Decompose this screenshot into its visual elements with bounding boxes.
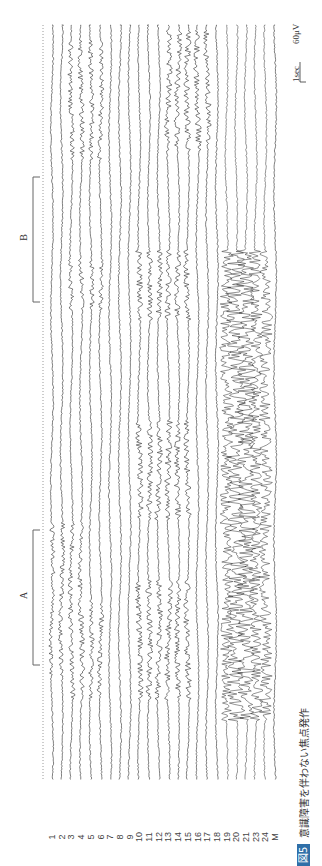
bracket-a-label: A xyxy=(18,592,29,599)
eeg-trace-ch-6 xyxy=(97,25,104,780)
eeg-trace-ch-17 xyxy=(204,25,211,780)
channel-label-21: 21 xyxy=(241,827,251,847)
eeg-trace-ch-13 xyxy=(164,25,172,780)
caption-text: 意識障害を伴わない焦点発作 xyxy=(296,708,311,838)
channel-label-16: 16 xyxy=(193,827,203,847)
eeg-trace-ch-14 xyxy=(174,25,182,780)
eeg-trace-ch-4 xyxy=(78,25,85,780)
channel-label-18: 18 xyxy=(212,827,222,847)
eeg-trace-ch-2 xyxy=(58,25,65,780)
eeg-trace-ch-18 xyxy=(215,25,219,780)
eeg-trace-ch-8 xyxy=(118,25,122,780)
eeg-traces xyxy=(0,0,322,866)
eeg-trace-ch-20 xyxy=(227,25,247,780)
channel-label-7: 7 xyxy=(105,827,115,847)
eeg-trace-ch-23 xyxy=(249,25,263,780)
eeg-trace-ch-1 xyxy=(49,25,55,780)
channel-label-24: 24 xyxy=(260,827,270,847)
eeg-trace-ch-15 xyxy=(184,25,192,780)
bracket-b xyxy=(33,177,40,302)
channel-label-1: 1 xyxy=(47,827,57,847)
channel-label-M: M xyxy=(270,827,280,847)
eeg-figure: A B 60μV 1sec 12345678910111213141516171… xyxy=(0,0,322,866)
eeg-trace-ch-16 xyxy=(194,25,202,780)
channel-label-13: 13 xyxy=(163,827,173,847)
eeg-trace-ch-11 xyxy=(146,25,153,780)
channel-label-8: 8 xyxy=(115,827,125,847)
eeg-trace-ch-24 xyxy=(259,25,273,780)
bracket-b-label: B xyxy=(18,234,29,241)
scale-amplitude: 60μV xyxy=(291,24,301,44)
channel-label-15: 15 xyxy=(183,827,193,847)
channel-label-4: 4 xyxy=(76,827,86,847)
channel-label-17: 17 xyxy=(202,827,212,847)
eeg-trace-ch-12 xyxy=(155,25,163,780)
bracket-a xyxy=(33,530,40,665)
channel-label-11: 11 xyxy=(144,827,154,847)
eeg-trace-ch-3 xyxy=(68,25,75,780)
eeg-trace-ch-19 xyxy=(220,25,234,780)
figure-number-badge: 図5 xyxy=(297,844,310,866)
scale-time: 1sec xyxy=(291,66,301,82)
eeg-trace-ch-7 xyxy=(108,25,112,780)
channel-label-14: 14 xyxy=(173,827,183,847)
eeg-trace-ch-M xyxy=(273,25,276,780)
eeg-trace-ch-9 xyxy=(128,25,132,780)
channel-label-20: 20 xyxy=(231,827,241,847)
channel-label-5: 5 xyxy=(86,827,96,847)
eeg-trace-ch-5 xyxy=(88,25,94,780)
eeg-trace-ch-10 xyxy=(135,25,143,780)
channel-label-10: 10 xyxy=(134,827,144,847)
channel-label-6: 6 xyxy=(96,827,106,847)
channel-label-3: 3 xyxy=(66,827,76,847)
figure-caption: 図5 意識障害を伴わない焦点発作 xyxy=(296,636,311,866)
